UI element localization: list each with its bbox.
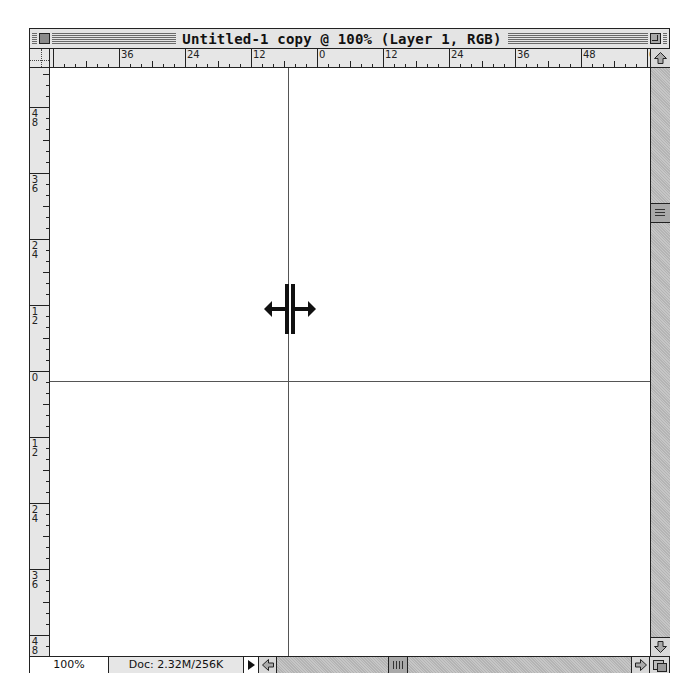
ruler-tick (46, 558, 49, 559)
zoom-box-button[interactable] (650, 33, 661, 44)
ruler-tick (526, 64, 527, 67)
move-guide-cursor-icon (264, 284, 316, 338)
ruler-tick (141, 64, 142, 67)
document-window: Untitled-1 copy @ 100% (Layer 1, RGB) 36… (29, 28, 670, 673)
ruler-tick (130, 64, 131, 67)
ruler-tick (46, 426, 49, 427)
origin-crosshair-v (41, 49, 42, 67)
ruler-label: 48 (581, 49, 596, 60)
status-popup-triangle-icon[interactable] (244, 657, 259, 673)
title-stripes-right (508, 33, 667, 44)
ruler-origin-corner[interactable] (30, 49, 50, 68)
ruler-tick (46, 360, 49, 361)
ruler-tick (46, 327, 49, 328)
ruler-tick (537, 64, 538, 67)
ruler-tick (97, 64, 98, 67)
ruler-label: 36 (31, 175, 39, 193)
ruler-tick (86, 61, 87, 67)
close-box-button[interactable] (39, 33, 50, 44)
ruler-tick (152, 61, 153, 67)
image-canvas[interactable] (50, 68, 650, 656)
horizontal-guide[interactable] (50, 381, 650, 382)
ruler-tick (614, 61, 615, 67)
ruler-tick (53, 49, 54, 67)
ruler-label: 12 (31, 307, 39, 325)
horizontal-ruler[interactable]: 36241201224364860 (50, 49, 650, 68)
vertical-scrollbar[interactable] (650, 49, 670, 656)
window-title: Untitled-1 copy @ 100% (Layer 1, RGB) (176, 30, 508, 48)
ruler-tick (394, 64, 395, 67)
scroll-right-arrow-icon[interactable] (631, 657, 649, 673)
vertical-scroll-track[interactable] (651, 68, 670, 637)
ruler-label: 12 (31, 439, 39, 457)
title-bar[interactable]: Untitled-1 copy @ 100% (Layer 1, RGB) (30, 29, 669, 49)
ruler-tick (46, 393, 49, 394)
ruler-tick (46, 646, 49, 647)
ruler-tick (625, 64, 626, 67)
ruler-tick (46, 349, 49, 350)
status-bar: 100% Doc: 2.32M/256K (30, 656, 669, 673)
ruler-label: 12 (251, 49, 266, 60)
ruler-tick (43, 206, 49, 207)
ruler-tick (43, 140, 49, 141)
ruler-tick (46, 261, 49, 262)
ruler-tick (174, 64, 175, 67)
ruler-tick (46, 514, 49, 515)
ruler-label: 36 (31, 571, 39, 589)
ruler-tick (350, 61, 351, 67)
origin-crosshair-h (30, 60, 49, 61)
resize-grow-box-icon[interactable] (650, 657, 669, 673)
ruler-tick (284, 61, 285, 67)
ruler-label: 12 (383, 49, 398, 60)
ruler-tick (46, 294, 49, 295)
ruler-tick (240, 64, 241, 67)
ruler-tick (43, 470, 49, 471)
ruler-tick (163, 64, 164, 67)
scroll-up-arrow-icon[interactable] (651, 49, 670, 68)
ruler-tick (46, 228, 49, 229)
ruler-tick (361, 64, 362, 67)
ruler-tick (471, 64, 472, 67)
ruler-label: 24 (185, 49, 200, 60)
ruler-tick (46, 118, 49, 119)
scroll-down-arrow-icon[interactable] (651, 637, 670, 656)
ruler-tick (43, 536, 49, 537)
ruler-tick (482, 61, 483, 67)
ruler-label: 48 (31, 109, 39, 127)
ruler-tick (46, 481, 49, 482)
ruler-label: 48 (31, 637, 39, 655)
vertical-ruler[interactable]: 6048362412012243648 (30, 68, 50, 656)
ruler-tick (46, 151, 49, 152)
zoom-level-field[interactable]: 100% (30, 657, 109, 673)
scroll-left-arrow-icon[interactable] (259, 657, 277, 673)
ruler-tick (108, 64, 109, 67)
ruler-tick (493, 64, 494, 67)
ruler-tick (46, 382, 49, 383)
ruler-tick (46, 129, 49, 130)
vertical-guide[interactable] (288, 68, 289, 656)
horizontal-scroll-thumb[interactable] (388, 657, 408, 673)
ruler-label: 24 (449, 49, 464, 60)
ruler-tick (548, 61, 549, 67)
grow-box-square-front (657, 663, 667, 672)
ruler-label: 0 (31, 373, 39, 382)
ruler-label: 36 (515, 49, 530, 60)
horizontal-scrollbar[interactable] (259, 657, 650, 673)
ruler-tick (603, 64, 604, 67)
ruler-tick (427, 64, 428, 67)
ruler-tick (295, 64, 296, 67)
ruler-label: 24 (31, 505, 39, 523)
ruler-tick (636, 64, 637, 67)
ruler-tick (75, 64, 76, 67)
ruler-tick (592, 64, 593, 67)
ruler-tick (46, 316, 49, 317)
ruler-tick (262, 64, 263, 67)
horizontal-scroll-track[interactable] (277, 657, 631, 673)
ruler-tick (559, 64, 560, 67)
vertical-scroll-thumb[interactable] (651, 203, 670, 223)
ruler-tick (416, 61, 417, 67)
ruler-tick (43, 404, 49, 405)
ruler-tick (207, 64, 208, 67)
ruler-tick (46, 459, 49, 460)
ruler-tick (46, 613, 49, 614)
